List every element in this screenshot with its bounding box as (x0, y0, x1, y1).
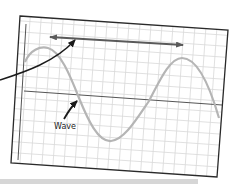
wave-label: Wave (54, 123, 76, 131)
bottom-bar (0, 179, 198, 184)
wave-diagram-svg (0, 0, 237, 184)
wave-diagram: Wave (0, 0, 237, 184)
